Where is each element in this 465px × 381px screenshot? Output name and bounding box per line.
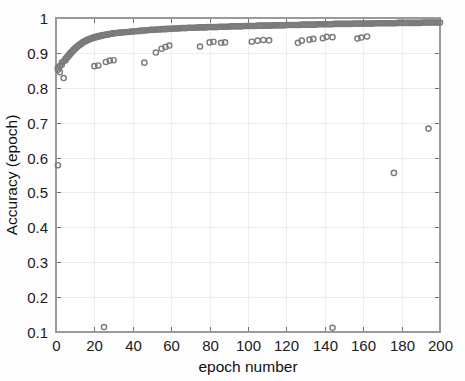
- x-axis-title: epoch number: [198, 358, 297, 375]
- y-tick-label: 0.2: [27, 289, 48, 306]
- x-tick-label: 20: [86, 337, 103, 354]
- figure-container: 020406080100120140160180200 0.10.20.30.4…: [0, 0, 465, 381]
- y-axis-title: Accuracy (epoch): [3, 115, 20, 236]
- y-tick-label: 0.3: [27, 254, 48, 271]
- y-tick-label: 0.6: [27, 150, 48, 167]
- x-tick-label: 140: [313, 337, 338, 354]
- x-tick-label: 0: [52, 337, 60, 354]
- x-tick-label: 60: [163, 337, 180, 354]
- x-tick-label: 160: [351, 337, 376, 354]
- x-tick-label: 120: [274, 337, 299, 354]
- x-tick-label: 180: [390, 337, 415, 354]
- y-tick-label: 0.5: [27, 184, 48, 201]
- y-tick-label: 0.4: [27, 219, 48, 236]
- x-tick-label: 80: [202, 337, 219, 354]
- y-tick-label: 0.8: [27, 80, 48, 97]
- y-tick-label: 1: [40, 10, 48, 27]
- x-tick-label: 40: [125, 337, 142, 354]
- y-tick-label: 0.1: [27, 324, 48, 341]
- y-tick-label: 0.9: [27, 45, 48, 62]
- x-tick-label: 100: [236, 337, 261, 354]
- scatter-plot: 020406080100120140160180200 0.10.20.30.4…: [0, 0, 465, 381]
- y-tick-label: 0.7: [27, 115, 48, 132]
- x-tick-label: 200: [428, 337, 453, 354]
